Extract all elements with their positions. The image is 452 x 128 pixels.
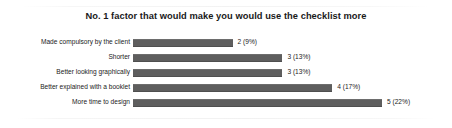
bar[interactable] <box>133 99 382 107</box>
scan-line-bottom <box>16 118 436 119</box>
bar[interactable] <box>133 69 282 77</box>
category-label: Made compulsory by the client <box>0 37 130 46</box>
bar[interactable] <box>133 84 332 92</box>
bar-value-label: 3 (13%) <box>287 52 310 61</box>
bar-track <box>133 69 282 77</box>
bar[interactable] <box>133 54 282 62</box>
category-label: More time to design <box>0 97 130 106</box>
bar-value-label: 4 (17%) <box>337 82 360 91</box>
bar-track <box>133 99 382 107</box>
chart-title: No. 1 factor that would make you would u… <box>0 11 452 21</box>
category-label: Shorter <box>0 52 130 61</box>
plot-area: Made compulsory by the client2 (9%)Short… <box>0 36 452 114</box>
bar-value-label: 5 (22%) <box>387 97 410 106</box>
bar-track <box>133 39 233 47</box>
bar[interactable] <box>133 39 233 47</box>
bar-value-label: 2 (9%) <box>238 37 257 46</box>
bar-chart: No. 1 factor that would make you would u… <box>0 0 452 128</box>
bar-track <box>133 54 282 62</box>
category-label: Better explained with a booklet <box>0 82 130 91</box>
category-label: Better looking graphically <box>0 67 130 76</box>
chart-row: Better looking graphically3 (13%) <box>0 66 452 81</box>
chart-row: Shorter3 (13%) <box>0 51 452 66</box>
chart-row: More time to design5 (22%) <box>0 96 452 111</box>
bar-track <box>133 84 332 92</box>
bar-value-label: 3 (13%) <box>287 67 310 76</box>
chart-row: Made compulsory by the client2 (9%) <box>0 36 452 51</box>
chart-row: Better explained with a booklet4 (17%) <box>0 81 452 96</box>
